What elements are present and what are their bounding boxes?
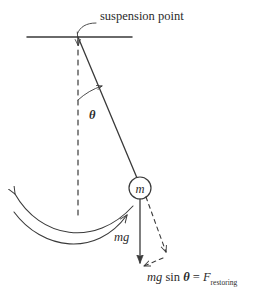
restoring-force-equation: mg sin θ = Frestoring bbox=[147, 270, 237, 287]
suspension-point-label: suspension point bbox=[100, 9, 184, 23]
pendulum-rod bbox=[78, 37, 137, 178]
weight-label: mg bbox=[114, 230, 129, 244]
pendulum-diagram-canvas: suspension point θ m mg mg sin θ = Frest… bbox=[0, 0, 258, 294]
bob-mass-label: m bbox=[135, 182, 144, 196]
swing-arc-outer bbox=[15, 194, 133, 233]
angle-arc bbox=[78, 86, 102, 100]
swing-arc-inner bbox=[14, 212, 127, 244]
angle-theta-label: θ bbox=[89, 108, 96, 122]
restoring-force-F-part: F bbox=[202, 270, 211, 284]
restoring-force-equals-part: = bbox=[190, 270, 203, 284]
suspension-point-leader-line bbox=[78, 23, 97, 34]
pendulum-figure: suspension point θ m mg mg sin θ = Frest… bbox=[0, 0, 258, 294]
restoring-force-sin-part: sin bbox=[162, 270, 183, 284]
restoring-component-dashed-arrow bbox=[144, 258, 163, 266]
restoring-force-subscript-part: restoring bbox=[211, 278, 238, 287]
restoring-force-mg-part: mg bbox=[147, 270, 162, 284]
radial-component-dashed-line bbox=[146, 197, 166, 252]
